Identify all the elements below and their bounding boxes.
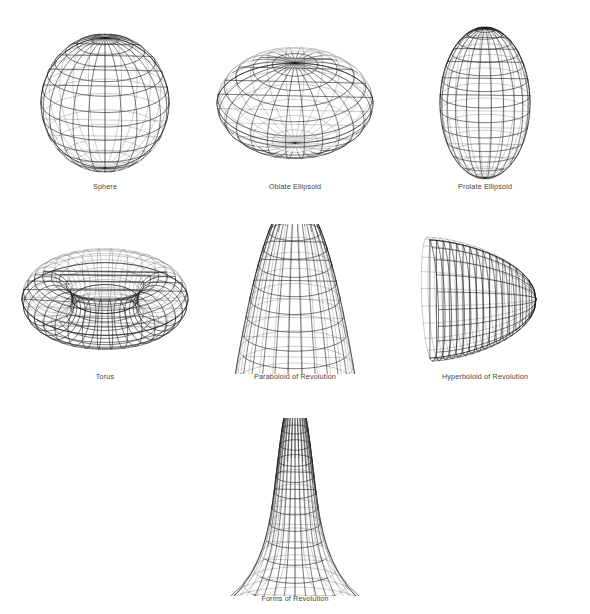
figure-caption-prolate-ellipsoid: Prolate Ellipsoid — [394, 182, 576, 191]
figure-caption-paraboloid-of-revolution: Paraboloid of Revolution — [204, 372, 386, 381]
wireframe-prolate-ellipsoid — [394, 14, 576, 192]
figure-hyperboloid-of-revolution: Hyperboloid of Revolution — [394, 224, 576, 386]
figure-caption-torus: Torus — [14, 372, 196, 381]
wireframe-sphere — [14, 14, 196, 192]
wireframe-oblate-ellipsoid — [204, 14, 386, 192]
wireframe-torus — [14, 224, 196, 374]
figure-caption-oblate-ellipsoid: Oblate Ellipsoid — [204, 182, 386, 191]
figure-paraboloid-of-revolution: Paraboloid of Revolution — [204, 224, 386, 386]
header-faint-text: · · · — [296, 0, 307, 2]
wireframe-forms-of-revolution — [195, 418, 395, 596]
figure-sphere: Sphere — [14, 14, 196, 196]
figure-caption-sphere: Sphere — [14, 182, 196, 191]
figure-forms-of-revolution: Forms of Revolution — [195, 418, 395, 608]
header-strip: · · · — [0, 0, 590, 8]
figure-torus: Torus — [14, 224, 196, 386]
wireframe-hyperboloid-of-revolution — [394, 224, 576, 374]
figure-caption-forms-of-revolution: Forms of Revolution — [195, 594, 395, 603]
figure-prolate-ellipsoid: Prolate Ellipsoid — [394, 14, 576, 196]
figure-plate: · · · SphereOblate EllipsoidProlate Elli… — [0, 0, 590, 614]
figure-caption-hyperboloid-of-revolution: Hyperboloid of Revolution — [394, 372, 576, 381]
figure-oblate-ellipsoid: Oblate Ellipsoid — [204, 14, 386, 196]
wireframe-paraboloid-of-revolution — [204, 224, 386, 374]
